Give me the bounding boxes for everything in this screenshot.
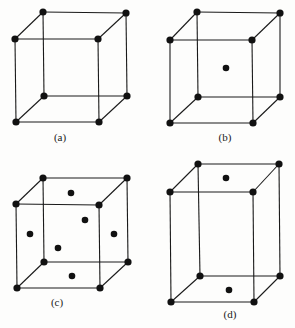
cell-edge (253, 97, 280, 123)
corner-atom (167, 298, 174, 305)
corner-atom (39, 8, 46, 15)
corner-atom (166, 188, 173, 195)
corner-atom (39, 174, 46, 181)
cell-edge (17, 262, 44, 288)
cell-edge (99, 178, 127, 205)
cell-edge (170, 97, 198, 123)
panel-label: (b) (219, 131, 232, 144)
cell-edge (15, 12, 43, 39)
cell-edge (43, 12, 44, 96)
cell-edge (99, 96, 127, 122)
cell-edge (16, 204, 99, 205)
centered-atom (27, 231, 34, 238)
cell-edge (98, 13, 126, 39)
cell-edge (100, 262, 128, 288)
cell-edge (170, 12, 197, 40)
cell-edge (252, 13, 280, 40)
cell-edge (99, 205, 100, 288)
centered-atom (111, 231, 118, 238)
centered-atom (223, 65, 230, 72)
cell-edge (253, 192, 254, 302)
unit-cell-simple-cubic: (a) (11, 8, 130, 144)
corner-atom (13, 284, 20, 291)
centered-atom (226, 287, 233, 294)
corner-atom (193, 8, 200, 15)
cell-edge (126, 13, 127, 96)
corner-atom (122, 9, 129, 16)
corner-atom (166, 36, 173, 43)
panel-label: (d) (224, 308, 237, 321)
corner-atom (96, 284, 103, 291)
cell-edge (197, 12, 198, 97)
lattice-diagram-canvas: (a)(b)(c)(d) (0, 0, 295, 328)
cell-edge (170, 192, 171, 302)
corner-atom (12, 118, 19, 125)
corner-atom (249, 119, 256, 126)
cell-edge (16, 178, 43, 204)
corner-atom (249, 188, 256, 195)
cell-edge (43, 12, 126, 13)
centered-atom (223, 175, 230, 182)
corner-atom (194, 160, 201, 167)
corner-atom (250, 298, 257, 305)
cell-edge (43, 178, 44, 262)
corner-atom (276, 93, 283, 100)
cell-edge (279, 164, 280, 276)
unit-cell-face-centered-cubic: (c) (12, 174, 131, 309)
cell-edge (98, 39, 99, 122)
corner-atom (275, 160, 282, 167)
corner-atom (95, 118, 102, 125)
corner-atom (40, 92, 47, 99)
corner-atom (12, 200, 19, 207)
centered-atom (69, 273, 76, 280)
crystal-lattice-figure: (a)(b)(c)(d) (0, 0, 295, 328)
unit-cell-body-centered-cubic: (b) (166, 8, 283, 144)
corner-atom (248, 36, 255, 43)
cell-edge (16, 204, 17, 288)
corner-atom (95, 201, 102, 208)
cell-edge (197, 12, 280, 13)
unit-cell-base-centered-tetragonal: (d) (166, 160, 283, 321)
panel-label: (c) (51, 296, 64, 309)
cell-edge (170, 164, 198, 192)
corner-atom (276, 9, 283, 16)
cell-edge (16, 96, 44, 122)
centered-atom (68, 190, 75, 197)
cell-edge (253, 164, 279, 192)
corner-atom (94, 35, 101, 42)
panel-label: (a) (54, 131, 67, 144)
centered-atom (55, 245, 62, 252)
corner-atom (124, 258, 131, 265)
centered-atom (82, 217, 89, 224)
cell-edge (198, 164, 200, 276)
corner-atom (276, 272, 283, 279)
cell-edge (252, 40, 253, 123)
corner-atom (196, 272, 203, 279)
cell-edge (15, 39, 16, 122)
corner-atom (40, 258, 47, 265)
corner-atom (11, 35, 18, 42)
cell-edge (127, 178, 128, 262)
corner-atom (123, 174, 130, 181)
corner-atom (123, 92, 130, 99)
cell-edge (171, 276, 200, 302)
corner-atom (166, 119, 173, 126)
corner-atom (194, 93, 201, 100)
cell-edge (254, 276, 280, 302)
